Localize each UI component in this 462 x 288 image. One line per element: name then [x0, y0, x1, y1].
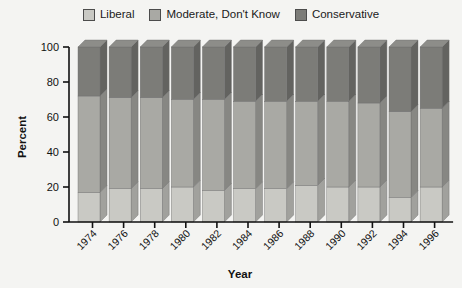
- x-tick-label: 1994: [385, 227, 410, 252]
- bar-segment-front: [389, 112, 411, 198]
- bar-group: [265, 40, 294, 222]
- x-tick-label: 1990: [323, 227, 348, 252]
- x-tick-label: 1974: [74, 227, 99, 252]
- bar-segment-side: [193, 180, 200, 222]
- bar-segment-front: [109, 189, 131, 222]
- bar-segment-front: [389, 47, 411, 112]
- x-tick-label: 1980: [167, 227, 192, 252]
- x-tick-label: 1986: [261, 227, 286, 252]
- bar-group: [358, 40, 387, 222]
- x-tick-label: 1992: [354, 227, 379, 252]
- bar-segment-front: [140, 98, 162, 189]
- bar-segment-side: [442, 180, 449, 222]
- bar-segment-front: [420, 187, 442, 222]
- bar-segment-side: [224, 93, 231, 191]
- bar-segment-side: [193, 93, 200, 188]
- bar-segment-side: [287, 94, 294, 189]
- bar-segment-side: [193, 40, 200, 100]
- bar-group: [389, 40, 418, 222]
- bar-segment-side: [442, 40, 449, 108]
- bar-segment-side: [349, 94, 356, 187]
- bar-segment-front: [202, 47, 224, 100]
- bars-layer: [78, 40, 449, 222]
- bar-segment-front: [265, 189, 287, 222]
- x-tick-label: 1982: [198, 227, 223, 252]
- x-tick-label: 1978: [136, 227, 161, 252]
- bar-segment-side: [318, 178, 325, 222]
- bar-segment-front: [109, 98, 131, 189]
- bar-segment-front: [327, 101, 349, 187]
- bar-segment-front: [358, 103, 380, 187]
- chart-root: Liberal Moderate, Don't Know Conservativ…: [0, 0, 462, 288]
- bar-segment-side: [442, 101, 449, 187]
- bar-segment-side: [131, 91, 138, 189]
- bar-group: [109, 40, 138, 222]
- x-axis-title: Year: [228, 268, 253, 280]
- bar-group: [420, 40, 449, 222]
- y-tick-label: 0: [53, 216, 59, 228]
- bar-segment-front: [140, 189, 162, 222]
- bar-group: [327, 40, 356, 222]
- bar-segment-front: [78, 47, 100, 96]
- bar-segment-front: [140, 47, 162, 98]
- bar-segment-side: [411, 105, 418, 198]
- bar-segment-front: [420, 47, 442, 108]
- bar-segment-side: [411, 40, 418, 112]
- y-tick-label: 100: [41, 41, 59, 53]
- chart-plot-area: 0204060801001974197619781980198219841986…: [0, 0, 462, 288]
- bar-segment-side: [100, 40, 107, 96]
- bar-segment-side: [162, 40, 169, 98]
- bar-segment-front: [171, 187, 193, 222]
- bar-segment-front: [420, 108, 442, 187]
- bar-segment-front: [389, 198, 411, 223]
- bar-segment-front: [78, 96, 100, 192]
- bar-segment-front: [234, 101, 256, 189]
- x-tick-label: 1996: [416, 227, 441, 252]
- bar-segment-side: [224, 40, 231, 100]
- bar-segment-side: [162, 91, 169, 189]
- bar-segment-front: [234, 47, 256, 101]
- bar-segment-front: [109, 47, 131, 98]
- bar-segment-side: [380, 96, 387, 187]
- bar-segment-side: [349, 180, 356, 222]
- bar-segment-side: [380, 180, 387, 222]
- y-tick-label: 40: [47, 146, 59, 158]
- bar-segment-side: [380, 40, 387, 103]
- bar-group: [78, 40, 107, 222]
- bar-segment-front: [327, 187, 349, 222]
- bar-segment-front: [202, 191, 224, 223]
- bar-segment-front: [358, 187, 380, 222]
- bar-segment-side: [318, 40, 325, 101]
- bar-segment-side: [256, 94, 263, 189]
- bar-segment-front: [202, 100, 224, 191]
- bar-group: [202, 40, 231, 222]
- x-tick-label: 1976: [105, 227, 130, 252]
- bar-segment-front: [296, 47, 318, 101]
- bar-group: [296, 40, 325, 222]
- y-tick-label: 80: [47, 76, 59, 88]
- bar-segment-front: [327, 47, 349, 101]
- bar-segment-side: [349, 40, 356, 101]
- bar-segment-front: [171, 100, 193, 188]
- bar-segment-side: [131, 40, 138, 98]
- y-tick-label: 20: [47, 181, 59, 193]
- bar-segment-side: [256, 40, 263, 101]
- y-axis-title: Percent: [16, 116, 28, 158]
- bar-segment-front: [296, 101, 318, 185]
- bar-segment-front: [171, 47, 193, 100]
- bar-segment-front: [234, 189, 256, 222]
- x-tick-label: 1984: [229, 227, 254, 252]
- bar-segment-front: [265, 47, 287, 101]
- bar-segment-side: [287, 40, 294, 101]
- bar-segment-front: [265, 101, 287, 189]
- bar-group: [234, 40, 263, 222]
- bar-segment-side: [100, 89, 107, 192]
- bar-segment-front: [358, 47, 380, 103]
- bar-group: [171, 40, 200, 222]
- x-tick-label: 1988: [292, 227, 317, 252]
- bar-segment-front: [78, 192, 100, 222]
- bar-group: [140, 40, 169, 222]
- bar-segment-side: [318, 94, 325, 185]
- bar-segment-front: [296, 185, 318, 222]
- y-tick-label: 60: [47, 111, 59, 123]
